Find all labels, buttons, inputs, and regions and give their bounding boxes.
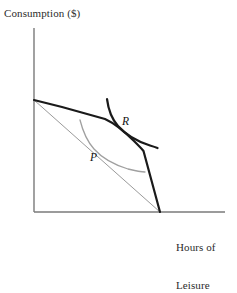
x-axis-title-line1: Hours of — [176, 241, 216, 254]
indifference-curve-p-label: P — [90, 151, 97, 163]
indifference-curve-r-label: R — [122, 115, 129, 127]
x-axis-title-line2: Leisure — [176, 279, 216, 292]
x-axis-title: Hours of Leisure — [176, 216, 216, 293]
indifference-curve-p — [80, 120, 145, 172]
